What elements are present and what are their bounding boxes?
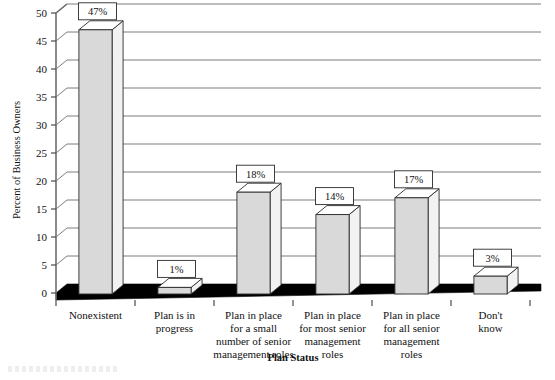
x-axis-title: Plan Status <box>267 352 318 363</box>
x-category-label-1: Plan is in <box>154 309 195 321</box>
bars-group <box>79 21 518 294</box>
y-tick-label-35: 35 <box>36 91 48 103</box>
labels-group: 47%Nonexistent1%Plan is inprogress18%Pla… <box>69 3 512 363</box>
gridline-40 <box>56 60 541 69</box>
y-tick-label-30: 30 <box>36 119 48 131</box>
x-category-label-5: know <box>478 322 503 334</box>
x-category-label-3: Plan in place <box>304 309 361 321</box>
value-label-2: 18% <box>246 169 266 180</box>
bar-3 <box>316 206 360 294</box>
gridline-5 <box>56 256 541 265</box>
gridline-20 <box>56 172 541 181</box>
y-tick-label-0: 0 <box>42 287 48 299</box>
bar-4 <box>395 189 439 294</box>
value-label-1: 1% <box>170 264 184 275</box>
y-tick-label-45: 45 <box>36 35 48 47</box>
bar-front-2 <box>237 192 270 294</box>
x-category-label-4: roles <box>401 348 422 360</box>
floor-plane <box>56 284 541 300</box>
gridline-30 <box>56 116 541 125</box>
y-tick-label-40: 40 <box>36 63 48 75</box>
value-label-0: 47% <box>88 6 108 17</box>
bar-side-4 <box>428 189 439 294</box>
gridline-15 <box>56 200 541 209</box>
bar-5 <box>474 267 518 294</box>
gridline-45 <box>56 32 541 41</box>
bar-front-5 <box>474 276 507 294</box>
x-category-label-4: Plan in place <box>383 309 440 321</box>
chart-floor <box>56 284 541 300</box>
bar-0 <box>79 21 123 294</box>
x-category-label-2: Plan in place <box>225 309 282 321</box>
bar-chart-figure: 05101520253035404550Percent of Business … <box>0 0 555 380</box>
bar-front-3 <box>316 215 349 294</box>
x-category-label-4: management <box>383 335 439 347</box>
bar-2 <box>237 183 281 294</box>
bar-side-2 <box>270 183 281 294</box>
gridline-35 <box>56 88 541 97</box>
x-category-label-3: management <box>304 335 360 347</box>
bar-side-3 <box>349 206 360 294</box>
gridline-50 <box>56 4 541 13</box>
bar-front-1 <box>158 287 191 294</box>
gridline-25 <box>56 144 541 153</box>
gridlines <box>56 4 541 265</box>
x-category-label-3: for most senior <box>299 322 366 334</box>
x-category-label-2: number of senior <box>216 335 291 347</box>
value-label-4: 17% <box>404 174 424 185</box>
bar-front-0 <box>79 30 112 294</box>
y-tick-label-15: 15 <box>36 203 48 215</box>
x-category-label-1: progress <box>156 322 193 334</box>
y-axis-title: Percent of Business Owners <box>11 101 22 219</box>
figure-caption-fragment <box>8 366 118 372</box>
x-category-label-3: roles <box>322 348 343 360</box>
y-tick-label-20: 20 <box>36 175 48 187</box>
y-tick-label-10: 10 <box>36 231 48 243</box>
y-tick-label-25: 25 <box>36 147 48 159</box>
x-category-label-0: Nonexistent <box>69 309 122 321</box>
x-category-label-2: for a small <box>230 322 277 334</box>
x-category-label-5: Don't <box>479 309 503 321</box>
y-tick-label-5: 5 <box>42 259 48 271</box>
value-label-5: 3% <box>486 253 500 264</box>
x-category-label-4: for all senior <box>383 322 440 334</box>
bar-side-0 <box>112 21 123 294</box>
y-axis-top-depth <box>56 4 67 13</box>
gridline-10 <box>56 228 541 237</box>
value-label-3: 14% <box>325 191 345 202</box>
y-tick-label-50: 50 <box>36 7 48 19</box>
bar-front-4 <box>395 198 428 294</box>
chart-canvas: 05101520253035404550Percent of Business … <box>0 0 555 380</box>
